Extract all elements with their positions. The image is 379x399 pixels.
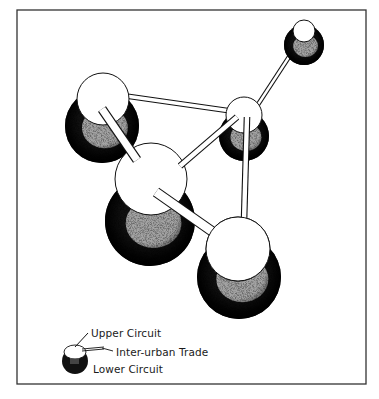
- trade-link-A-B: [126, 96, 231, 111]
- upper-circuit-cap: [293, 20, 315, 42]
- trade-link-B-E: [244, 117, 247, 221]
- inter-urban-trade-links: [126, 37, 302, 111]
- circuit-network-diagram: [0, 0, 379, 399]
- legend-upper-circuit: Upper Circuit: [91, 327, 161, 339]
- top-right-city-node: [284, 20, 324, 65]
- legend-lower-circuit: Lower Circuit: [93, 363, 163, 375]
- legend-inter-urban-trade: Inter-urban Trade: [116, 346, 208, 358]
- lower-right-city-cap-front: [206, 217, 270, 281]
- figure-frame: [17, 10, 366, 384]
